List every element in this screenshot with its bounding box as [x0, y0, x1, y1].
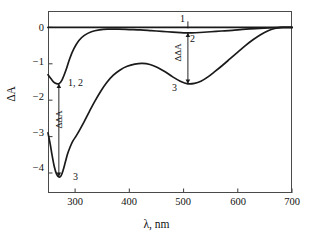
figure-container: 0 −1 −2 −3 −4 300 400 500 600 700 ΔA λ, … — [0, 0, 313, 243]
y-tick-label-4: −4 — [22, 163, 44, 173]
y-tick-label-3: −3 — [22, 128, 44, 138]
y-tick-label-2: −2 — [22, 92, 44, 102]
y-axis-label: ΔA — [5, 71, 17, 117]
x-tick-label-600: 600 — [218, 197, 258, 207]
delta-delta-a-right-label: ΔΔA — [174, 38, 183, 68]
x-axis-label: λ, nm — [0, 218, 313, 230]
curves-1-2-label: 1, 2 — [68, 78, 83, 88]
x-tick-label-300: 300 — [55, 197, 95, 207]
x-tick-label-700: 700 — [272, 197, 312, 207]
curve-1-label: 1 — [180, 14, 185, 24]
curve-2-label: 2 — [190, 34, 195, 44]
y-tick-label-1: −1 — [22, 57, 44, 67]
plot-frame — [48, 11, 292, 193]
curve-3-right-label: 3 — [172, 83, 177, 93]
y-tick-label-0: 0 — [22, 23, 44, 33]
curve-3-left-label: 3 — [73, 172, 78, 182]
x-tick-label-400: 400 — [109, 197, 149, 207]
x-tick-label-500: 500 — [163, 197, 203, 207]
delta-delta-a-left-label: ΔΔA — [55, 105, 64, 135]
